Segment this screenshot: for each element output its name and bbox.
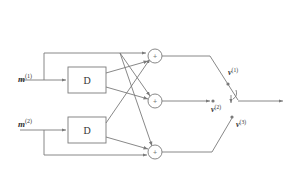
adder-3: + (148, 145, 162, 159)
label-m1: m(1) (18, 73, 32, 84)
label-m2: m(2) (18, 118, 32, 129)
output-path-1 (162, 56, 238, 100)
commutator-switch (231, 90, 283, 103)
cross-connections (106, 53, 152, 149)
output-path-3 (162, 115, 234, 152)
encoder-diagram: + + + m(1) m(2) D D v(1) v(2) v(3 (0, 0, 304, 173)
svg-text:+: + (153, 53, 157, 60)
delay-label-1: D (83, 75, 90, 86)
label-v2: v(2) (211, 104, 221, 115)
label-v3: v(3) (236, 119, 246, 130)
svg-text:+: + (153, 149, 157, 156)
output-path-2 (162, 99, 215, 102)
adder-2: + (148, 94, 162, 108)
label-v1: v(1) (228, 67, 238, 78)
svg-text:+: + (153, 98, 157, 105)
delay-label-2: D (83, 125, 90, 136)
adder-1: + (148, 49, 162, 63)
